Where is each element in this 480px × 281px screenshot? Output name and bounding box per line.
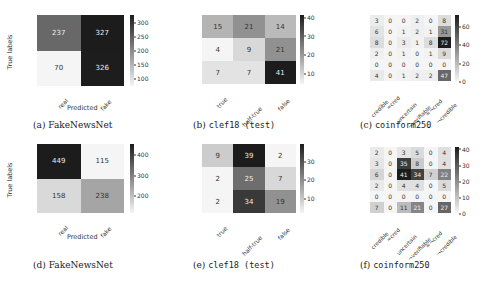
heatmap-cell: 7 [202,61,233,84]
heatmap-d: 449115158238 [37,144,124,213]
heatmap-cell: 449 [37,144,81,179]
heatmap-cell: 2 [265,144,296,167]
heatmap-cell: 3 [370,15,384,26]
heatmap-cell: 39 [233,144,264,167]
heatmap-cell: 7 [233,61,264,84]
column-label: true [215,96,229,110]
heatmap-cell: 1 [397,26,411,37]
caption-label: (e) [193,260,205,270]
caption-a: (a) FakeNewsNet [33,120,112,130]
colorbar-tick: 40 [459,145,470,152]
heatmap-cell: 0 [411,48,425,59]
heatmap-cell: 9 [202,144,233,167]
heatmap-cell: 5 [438,180,452,191]
colorbar-tick: 400 [134,151,148,158]
column-label: true [215,225,229,239]
heatmap-cell: 0 [424,158,438,169]
heatmap-cell: 70 [37,51,81,87]
x-axis-title: Predicted [67,104,98,112]
heatmap-cell: 2 [411,26,425,37]
heatmap-cell: 21 [233,15,264,38]
heatmap-cell: 0 [424,59,438,70]
caption-dataset-name: clef18 (test) [208,260,275,270]
heatmap-cell: 1 [424,26,438,37]
heatmap-cell: 9 [233,38,264,61]
caption-label: (a) [33,120,45,130]
caption-label: (f) [360,260,370,270]
heatmap-c: 300208601213180318722010190000004012247 [370,15,451,81]
heatmap-cell: 0 [370,59,384,70]
heatmap-cell: 22 [438,169,452,180]
heatmap-cell: 0 [384,70,398,81]
heatmap-cell: 158 [37,179,81,214]
column-label: ≈cred [385,227,401,243]
heatmap-cell: 0 [370,191,384,202]
heatmap-cell: 7 [424,169,438,180]
heatmap-cell: 6 [370,26,384,37]
heatmap-cell: 2 [370,180,384,191]
heatmap-cell: 0 [438,59,452,70]
heatmap-cell: 2 [411,15,425,26]
colorbar-tick: 150 [134,60,148,67]
heatmap-cell: 326 [81,51,125,87]
caption-dataset-name: FakeNewsNet [49,260,113,270]
caption-b: (b) clef18 (test) [193,120,275,130]
colorbar-tick: 20 [304,51,315,58]
heatmap-cell: 0 [384,202,398,213]
colorbar-tick: 40 [304,13,315,20]
colorbar-tick: 0 [459,78,466,85]
heatmap-cell: 1 [411,37,425,48]
colorbar-tick: 0 [459,210,466,217]
heatmap-cell: 0 [384,158,398,169]
colorbar-tick: 200 [134,47,148,54]
heatmap-cell: 0 [384,15,398,26]
heatmap-f: 2035043035804604134722204405000000701121… [370,147,451,213]
caption-label: (c) [360,120,372,130]
heatmap-cell: 238 [81,179,125,214]
heatmap-cell: 0 [384,59,398,70]
heatmap-cell: 3 [397,147,411,158]
heatmap-cell: 0 [424,180,438,191]
heatmap-cell: 4 [370,70,384,81]
heatmap-cell: 237 [37,15,81,51]
y-axis-title: True labels [6,163,14,198]
heatmap-cell: 8 [411,158,425,169]
heatmap-cell: 2 [370,48,384,59]
heatmap-e: 9392225723419 [202,144,296,213]
caption-dataset-name: FakeNewsNet [48,120,112,130]
colorbar-tick: 20 [304,176,315,183]
heatmap-cell: 0 [411,191,425,202]
heatmap-cell: 0 [384,37,398,48]
caption-c: (c) coinform250 [360,120,431,130]
heatmap-cell: 15 [202,15,233,38]
caption-label: (d) [33,260,46,270]
heatmap-cell: 34 [411,169,425,180]
heatmap-cell: 0 [384,48,398,59]
heatmap-cell: 21 [265,38,296,61]
heatmap-cell: 3 [397,37,411,48]
colorbar-tick: 100 [134,74,148,81]
caption-f: (f) coinform250 [360,260,430,270]
heatmap-cell: 0 [411,59,425,70]
heatmap-cell: 11 [397,202,411,213]
heatmap-cell: 1 [397,48,411,59]
caption-label: (b) [193,120,206,130]
heatmap-cell: 8 [370,37,384,48]
heatmap-cell: 34 [233,190,264,213]
colorbar-tick: 200 [134,192,148,199]
heatmap-cell: 0 [424,202,438,213]
heatmap-cell: 0 [384,169,398,180]
colorbar-tick: 10 [459,193,470,200]
heatmap-cell: 0 [424,147,438,158]
colorbar-tick: 300 [134,171,148,178]
heatmap-cell: 47 [438,70,452,81]
heatmap-cell: 2 [370,147,384,158]
heatmap-cell: 14 [265,15,296,38]
heatmap-cell: 4 [438,158,452,169]
column-label: false [276,97,291,112]
y-axis-title: True labels [6,35,14,70]
heatmap-cell: 7 [265,167,296,190]
heatmap-cell: 0 [397,191,411,202]
heatmap-cell: 31 [438,26,452,37]
colorbar-tick: 250 [134,33,148,40]
